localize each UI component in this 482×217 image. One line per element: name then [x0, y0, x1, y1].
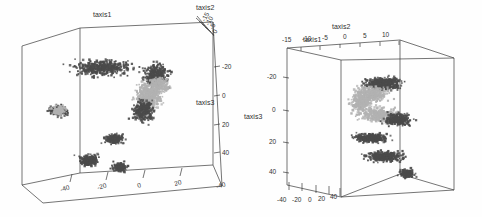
figure-canvas: taxis1 taxis2 taxis3 -15 -10 -5 0 -20 0 …: [0, 0, 482, 217]
left-plot-svg: taxis1 taxis2 taxis3 -15 -10 -5 0 -20 0 …: [0, 0, 241, 217]
svg-text:0: 0: [136, 181, 142, 189]
svg-text:-20: -20: [267, 73, 277, 80]
svg-text:-40: -40: [59, 183, 70, 193]
left-bottom-ticklabels: -40 -20 0 20 -40: [59, 178, 226, 193]
svg-text:20: 20: [173, 178, 182, 187]
svg-text:-5: -5: [322, 34, 328, 41]
svg-text:-20: -20: [222, 63, 232, 70]
left-taxis3-ticks: [214, 66, 220, 153]
svg-text:-15: -15: [282, 36, 292, 43]
svg-text:0: 0: [272, 106, 276, 113]
svg-text:-20: -20: [96, 181, 107, 191]
svg-text:0: 0: [308, 196, 312, 203]
left-axis-box: [22, 22, 222, 203]
right-data-points: [347, 75, 417, 180]
svg-text:-40: -40: [215, 180, 226, 190]
right-plot-svg: taxis2 taxis1 taxis3 -15 -10 -5 0 5 10 -…: [241, 0, 482, 217]
svg-text:-10: -10: [302, 35, 312, 42]
left-taxis3-label: taxis3: [196, 99, 214, 106]
right-taxis2-label: taxis2: [332, 23, 350, 30]
svg-text:5: 5: [363, 32, 367, 39]
left-taxis3-ticklabels: -20 0 20 40: [222, 63, 232, 156]
right-taxis3-ticklabels: -20 0 20 40: [267, 73, 277, 175]
right-taxis2-ticklabels: -15 -10 -5 0 5 10: [282, 31, 390, 43]
left-taxis2-label: taxis2: [196, 4, 214, 11]
right-3d-scatter-panel: taxis2 taxis1 taxis3 -15 -10 -5 0 5 10 -…: [241, 0, 482, 217]
svg-text:20: 20: [269, 138, 277, 145]
svg-text:0: 0: [343, 33, 347, 40]
svg-text:-20: -20: [292, 196, 302, 203]
left-data-points: [46, 58, 172, 173]
left-taxis1-label: taxis1: [93, 11, 111, 18]
svg-text:10: 10: [382, 31, 390, 38]
svg-text:0: 0: [222, 92, 226, 99]
svg-text:40: 40: [330, 193, 338, 200]
right-taxis3-ticks: [283, 77, 289, 173]
svg-text:20: 20: [318, 195, 326, 202]
svg-text:20: 20: [222, 121, 230, 128]
right-taxis3-label: taxis3: [244, 113, 262, 120]
left-3d-scatter-panel: taxis1 taxis2 taxis3 -15 -10 -5 0 -20 0 …: [0, 0, 241, 217]
svg-text:40: 40: [222, 149, 230, 156]
svg-text:-40: -40: [277, 196, 287, 203]
svg-text:40: 40: [269, 168, 277, 175]
